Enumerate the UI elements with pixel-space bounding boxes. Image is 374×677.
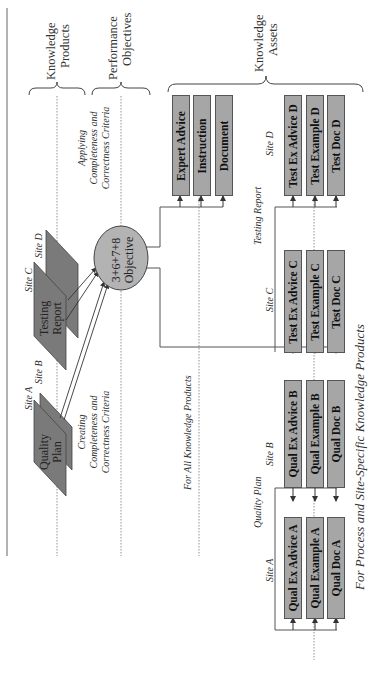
- asset-qual-example-b[interactable]: Qual Example B: [306, 380, 324, 488]
- testing-report-group-label: Testing Report: [252, 187, 263, 245]
- quality-plan-group-label: Quality Plan: [252, 477, 263, 528]
- asset-label: Qual Ex Advice B: [287, 390, 299, 477]
- creating-criteria: Creating Completeness and Correctness Cr…: [76, 380, 112, 484]
- site-a-doc-label: Site A: [23, 387, 34, 410]
- site-a-group-label: Site A: [264, 559, 275, 582]
- annotation-line: Correctness Criteria: [100, 96, 112, 200]
- applying-criteria: Applying Completeness and Correctness Cr…: [76, 96, 112, 200]
- asset-label: Test Example C: [309, 263, 321, 341]
- asset-label: Test Example D: [309, 107, 321, 185]
- asset-test-example-c[interactable]: Test Example C: [306, 250, 324, 353]
- asset-test-example-d[interactable]: Test Example D: [306, 95, 324, 196]
- asset-label: Qual Doc A: [330, 540, 342, 597]
- annotation-line: Applying: [76, 96, 88, 200]
- asset-qual-ex-advice-b[interactable]: Qual Ex Advice B: [284, 380, 302, 488]
- header-line: Knowledge: [44, 22, 58, 80]
- asset-label: Test Doc C: [330, 275, 342, 328]
- doc-label-line: Plan: [51, 434, 64, 470]
- asset-instruction[interactable]: Instruction: [193, 95, 211, 196]
- header-performance-objectives: Performance Objectives: [106, 13, 134, 80]
- annotation-line: Creating: [76, 380, 88, 484]
- testing-report-label: Testing Report: [38, 301, 64, 336]
- annotation-line: Completeness and: [88, 380, 100, 484]
- asset-test-ex-advice-c[interactable]: Test Ex Advice C: [284, 250, 302, 353]
- asset-label: Qual Doc B: [330, 406, 342, 463]
- asset-test-doc-c[interactable]: Test Doc C: [327, 250, 345, 353]
- site-b-group-label: Site B: [264, 442, 275, 466]
- site-c-doc-label: Site C: [23, 268, 34, 292]
- for-all-knowledge-products: For All Knowledge Products: [182, 375, 193, 490]
- header-line: Products: [58, 22, 72, 80]
- for-process-site-specific: For Process and Site-Specific Knowledge …: [352, 324, 368, 590]
- quality-plan-label: Quality Plan: [38, 434, 64, 470]
- site-d-group-label: Site D: [264, 131, 275, 156]
- asset-label: Test Ex Advice C: [287, 260, 299, 344]
- asset-label: Qual Example B: [309, 393, 321, 474]
- header-knowledge-products: Knowledge Products: [44, 22, 72, 80]
- asset-test-doc-d[interactable]: Test Doc D: [327, 95, 345, 196]
- asset-test-ex-advice-d[interactable]: Test Ex Advice D: [284, 95, 302, 196]
- site-d-doc-label: Site D: [33, 233, 44, 258]
- header-line: Performance: [106, 13, 120, 80]
- asset-label: Instruction: [196, 118, 208, 173]
- objective-label: Objective: [123, 228, 136, 292]
- header-line: Assets: [266, 14, 280, 72]
- site-c-group-label: Site C: [264, 288, 275, 312]
- header-knowledge-assets: Knowledge Assets: [252, 14, 280, 72]
- asset-label: Qual Ex Advice A: [287, 524, 299, 611]
- asset-qual-ex-advice-a[interactable]: Qual Ex Advice A: [284, 517, 302, 619]
- annotation-line: Correctness Criteria: [100, 380, 112, 484]
- asset-expert-advice[interactable]: Expert Advice: [172, 95, 190, 196]
- doc-label-line: Report: [51, 301, 64, 336]
- objective-circle: 3+6+7+8 Objective: [110, 228, 136, 292]
- asset-label: Test Doc D: [330, 119, 342, 172]
- asset-qual-doc-b[interactable]: Qual Doc B: [327, 380, 345, 488]
- asset-label: Test Ex Advice D: [287, 104, 299, 188]
- asset-label: Expert Advice: [175, 111, 187, 181]
- site-b-doc-label: Site B: [33, 360, 44, 384]
- asset-qual-doc-a[interactable]: Qual Doc A: [327, 517, 345, 619]
- asset-document[interactable]: Document: [215, 95, 233, 196]
- header-line: Knowledge: [252, 14, 266, 72]
- asset-label: Qual Example A: [309, 527, 321, 608]
- annotation-line: Completeness and: [88, 96, 100, 200]
- asset-qual-example-a[interactable]: Qual Example A: [306, 517, 324, 619]
- header-line: Objectives: [120, 13, 134, 80]
- asset-label: Document: [218, 120, 230, 170]
